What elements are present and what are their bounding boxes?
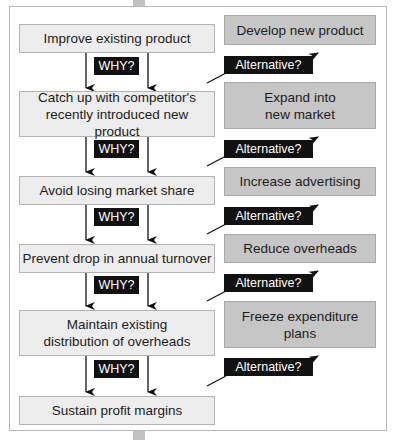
why-label: WHY? bbox=[94, 140, 139, 158]
alternative-text: Reduce overheads bbox=[243, 240, 356, 257]
alternative-box-1: Develop new product bbox=[224, 15, 376, 45]
alternative-text: Freeze expenditure plans bbox=[241, 308, 359, 342]
alternative-box-5: Freeze expenditure plans bbox=[224, 301, 376, 348]
step-box-1: Improve existing product bbox=[19, 24, 215, 53]
alternative-label: Alternative? bbox=[224, 207, 313, 225]
alternative-label: Alternative? bbox=[224, 140, 313, 158]
diagram-frame bbox=[9, 6, 387, 431]
why-label: WHY? bbox=[94, 57, 139, 75]
step-text: Sustain profit margins bbox=[52, 402, 183, 419]
step-box-5: Maintain existing distribution of overhe… bbox=[19, 310, 215, 356]
step-text: Prevent drop in annual turnover bbox=[22, 250, 211, 267]
alternative-box-2: Expand into new market bbox=[224, 82, 376, 129]
why-label: WHY? bbox=[94, 208, 139, 226]
step-text: Maintain existing distribution of overhe… bbox=[34, 316, 200, 350]
step-box-4: Prevent drop in annual turnover bbox=[19, 244, 215, 273]
why-label: WHY? bbox=[94, 276, 139, 294]
alternative-text: Expand into new market bbox=[253, 89, 347, 123]
why-label: WHY? bbox=[94, 360, 139, 378]
alternative-text: Increase advertising bbox=[240, 173, 361, 190]
alternative-text: Develop new product bbox=[237, 22, 364, 39]
alternative-box-4: Reduce overheads bbox=[224, 234, 376, 263]
step-box-2: Catch up with competitor's recently intr… bbox=[19, 91, 215, 137]
step-text: Avoid losing market share bbox=[39, 182, 194, 199]
step-text: Improve existing product bbox=[43, 30, 190, 47]
step-box-6: Sustain profit margins bbox=[19, 396, 215, 425]
alternative-label: Alternative? bbox=[224, 56, 313, 74]
step-text: Catch up with competitor's recently intr… bbox=[24, 89, 210, 140]
alternative-box-3: Increase advertising bbox=[224, 167, 376, 196]
alternative-label: Alternative? bbox=[224, 274, 313, 292]
connector-stem-bottom bbox=[133, 431, 145, 440]
alternative-label: Alternative? bbox=[224, 358, 313, 376]
step-box-3: Avoid losing market share bbox=[19, 176, 215, 205]
